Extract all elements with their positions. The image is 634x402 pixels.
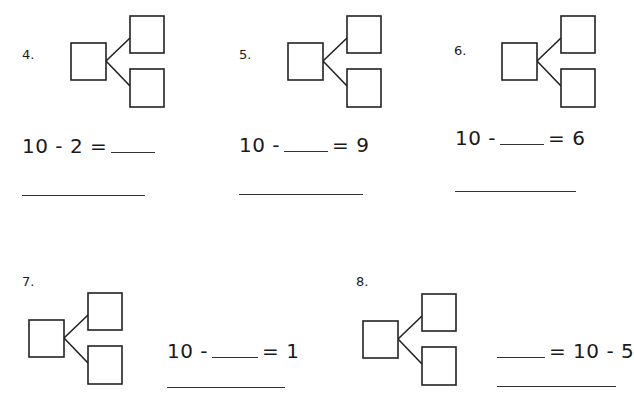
part-box-bottom [88, 346, 122, 384]
equation-result: = 1 [262, 339, 299, 363]
equation-text: 10 - [167, 339, 208, 363]
answer-line[interactable] [167, 387, 285, 388]
answer-blank[interactable] [497, 356, 545, 358]
equation-result: = 9 [332, 133, 369, 157]
part-box-bottom [561, 69, 595, 107]
part-box-top [422, 294, 456, 331]
answer-blank[interactable] [284, 150, 328, 152]
part-box-top [130, 16, 164, 53]
number-bond-icon [502, 16, 597, 109]
answer-blank[interactable] [500, 143, 544, 145]
answer-blank[interactable] [111, 151, 155, 153]
part-box-bottom [422, 347, 456, 385]
number-bond-icon [363, 294, 458, 387]
problem-number: 7. [22, 274, 34, 289]
problem-number: 4. [22, 47, 34, 62]
equation: 10 - 2 = [22, 134, 159, 158]
whole-box [29, 320, 64, 357]
problem-number: 5. [239, 47, 251, 62]
number-bond-icon [288, 16, 383, 109]
equation-result: = 6 [548, 126, 585, 150]
equation: 10 -= 9 [239, 133, 369, 157]
part-box-top [347, 16, 381, 53]
problem-number: 6. [454, 43, 466, 58]
equation-text: 10 - [239, 133, 280, 157]
part-box-bottom [347, 69, 381, 107]
answer-blank[interactable] [212, 356, 258, 358]
equation: = 10 - 5 [495, 339, 634, 363]
equation: 10 -= 1 [167, 339, 299, 363]
whole-box [71, 43, 106, 80]
whole-box [288, 43, 323, 80]
whole-box [502, 43, 537, 80]
answer-line[interactable] [22, 195, 145, 196]
equation-text: 10 - [455, 126, 496, 150]
whole-box [363, 321, 398, 358]
answer-line[interactable] [239, 194, 363, 195]
equation-text: 10 - 2 = [22, 134, 107, 158]
answer-line[interactable] [497, 386, 616, 387]
part-box-bottom [130, 69, 164, 107]
number-bond-icon [29, 293, 124, 386]
equation: 10 -= 6 [455, 126, 585, 150]
part-box-top [561, 16, 595, 53]
problem-number: 8. [356, 274, 368, 289]
part-box-top [88, 293, 122, 330]
answer-line[interactable] [455, 191, 576, 192]
number-bond-icon [71, 16, 166, 109]
equation-result: = 10 - 5 [549, 339, 634, 363]
